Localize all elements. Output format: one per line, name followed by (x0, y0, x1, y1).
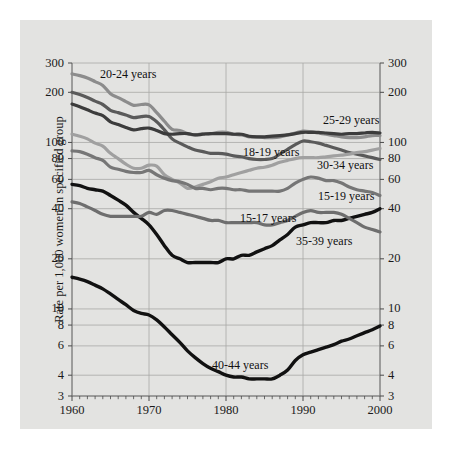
y-axis-tick-right: 20 (388, 252, 422, 265)
y-axis-tick-right: 10 (388, 302, 422, 315)
y-axis-tick-left: 8 (30, 319, 64, 332)
series-label: 35-39 years (296, 235, 352, 247)
chart-figure: Rate per 1,000 women in specified group … (0, 0, 451, 449)
x-axis-tick: 1970 (127, 404, 171, 417)
y-axis-tick-left: 40 (30, 202, 64, 215)
series-label: 40-44 years (212, 359, 268, 371)
series-label: 15-17 years (240, 212, 296, 224)
y-axis-tick-left: 20 (30, 252, 64, 265)
y-axis-tick-right: 200 (388, 86, 422, 99)
x-axis-tick: 1960 (50, 404, 94, 417)
series-label: 15-19 years (318, 190, 374, 202)
y-axis-tick-right: 40 (388, 202, 422, 215)
y-axis-tick-right: 300 (388, 57, 422, 70)
series-label: 30-34 years (317, 159, 373, 171)
chart-plot-svg (0, 0, 451, 449)
x-axis-tick: 1980 (204, 404, 248, 417)
y-axis-tick-left: 6 (30, 339, 64, 352)
y-axis-tick-right: 3 (388, 390, 422, 403)
y-axis-tick-left: 300 (30, 57, 64, 70)
series-label: 20-24 years (100, 68, 156, 80)
series-label: 18-19 years (243, 146, 299, 158)
x-axis-tick: 2000 (358, 404, 402, 417)
y-axis-tick-left: 80 (30, 152, 64, 165)
y-axis-tick-right: 80 (388, 152, 422, 165)
y-axis-tick-left: 200 (30, 86, 64, 99)
y-axis-tick-left: 100 (30, 136, 64, 149)
y-axis-tick-right: 6 (388, 339, 422, 352)
y-axis-tick-right: 60 (388, 173, 422, 186)
x-axis-tick: 1990 (281, 404, 325, 417)
y-axis-tick-left: 3 (30, 390, 64, 403)
y-axis-tick-left: 60 (30, 173, 64, 186)
y-axis-tick-right: 8 (388, 319, 422, 332)
series-label: 25-29 years (323, 114, 379, 126)
y-axis-tick-right: 4 (388, 369, 422, 382)
y-axis-tick-left: 10 (30, 302, 64, 315)
y-axis-tick-left: 4 (30, 369, 64, 382)
y-axis-tick-right: 100 (388, 136, 422, 149)
